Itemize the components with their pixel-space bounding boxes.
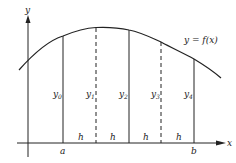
x-axis-label: x: [227, 138, 232, 148]
x-axis-arrow-icon: [216, 141, 226, 146]
function-label: y = f(x): [183, 35, 218, 45]
interval-label-4: h: [176, 132, 182, 142]
y-axis: y: [24, 5, 31, 157]
interval-label-2: h: [110, 132, 116, 142]
interval-label-1: h: [78, 132, 84, 142]
y-axis-label: y: [24, 5, 31, 15]
bound-label-a: a: [60, 146, 65, 156]
ordinate-label-y0: y0: [52, 89, 62, 100]
ordinate-label-y1: y1: [85, 89, 95, 100]
ordinate-label-y2: y2: [118, 89, 128, 100]
x-axis: x: [17, 138, 232, 148]
y-axis-arrow-icon: [26, 15, 31, 23]
simpson-rule-diagram: y x y0 y1 y2 y3 y4 h h h h a b y = f(x): [0, 0, 236, 163]
ordinate-label-y3: y3: [150, 89, 160, 100]
interval-label-3: h: [143, 132, 149, 142]
bound-label-b: b: [191, 146, 197, 156]
ordinate-label-y4: y4: [183, 89, 193, 100]
